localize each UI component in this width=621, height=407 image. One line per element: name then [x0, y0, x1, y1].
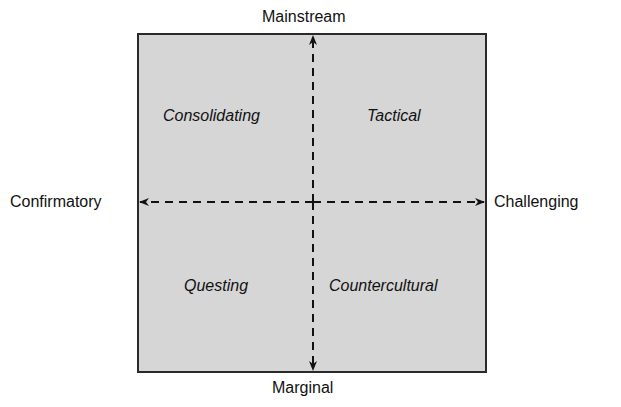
quadrant-top-left: Consolidating: [163, 107, 260, 125]
axis-label-top: Mainstream: [262, 8, 346, 26]
axis-label-right: Challenging: [494, 193, 579, 211]
quadrant-bottom-left: Questing: [184, 277, 248, 295]
quadrant-top-right: Tactical: [367, 107, 421, 125]
axis-label-left: Confirmatory: [10, 193, 102, 211]
quadrant-bottom-right: Countercultural: [329, 277, 438, 295]
axis-label-bottom: Marginal: [272, 379, 333, 397]
